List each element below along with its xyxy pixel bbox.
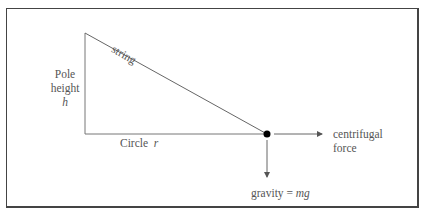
circle-radius-label: Circle r xyxy=(120,136,158,150)
pendulum-diagram xyxy=(0,0,432,218)
mass-dot xyxy=(264,131,271,138)
centrifugal-force-label: centrifugal force xyxy=(333,127,383,155)
gravity-label: gravity = mg xyxy=(251,186,310,200)
pole-height-label: Pole height h xyxy=(49,67,81,109)
